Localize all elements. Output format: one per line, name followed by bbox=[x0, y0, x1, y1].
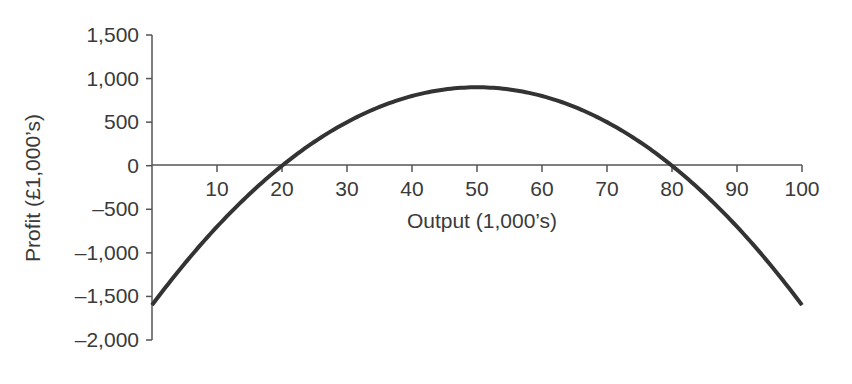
x-tick-label: 60 bbox=[530, 177, 553, 200]
x-tick-label: 90 bbox=[725, 177, 748, 200]
y-tick-label: 1,500 bbox=[86, 23, 139, 46]
y-tick-label: 1,000 bbox=[86, 67, 139, 90]
y-axis: 1,5001,0005000–500–1,000–1,500–2,000 bbox=[75, 23, 152, 351]
x-axis: 102030405060708090100 bbox=[152, 165, 820, 200]
y-tick-label: 0 bbox=[127, 154, 139, 177]
x-tick-label: 40 bbox=[400, 177, 423, 200]
x-tick-label: 20 bbox=[270, 177, 293, 200]
y-tick-label: 500 bbox=[104, 110, 139, 133]
x-tick-label: 10 bbox=[205, 177, 228, 200]
y-tick-label: –500 bbox=[92, 197, 139, 220]
y-axis-title: Profit (£1,000’s) bbox=[21, 114, 44, 262]
x-tick-label: 80 bbox=[660, 177, 683, 200]
x-tick-label: 50 bbox=[465, 177, 488, 200]
x-tick-label: 30 bbox=[335, 177, 358, 200]
x-axis-title: Output (1,000’s) bbox=[407, 209, 557, 232]
y-tick-label: –1,500 bbox=[75, 284, 139, 307]
y-tick-label: –2,000 bbox=[75, 328, 139, 351]
y-tick-label: –1,000 bbox=[75, 241, 139, 264]
x-tick-label: 100 bbox=[784, 177, 819, 200]
x-tick-label: 70 bbox=[595, 177, 618, 200]
profit-chart: 1,5001,0005000–500–1,000–1,500–2,000 102… bbox=[0, 0, 852, 384]
